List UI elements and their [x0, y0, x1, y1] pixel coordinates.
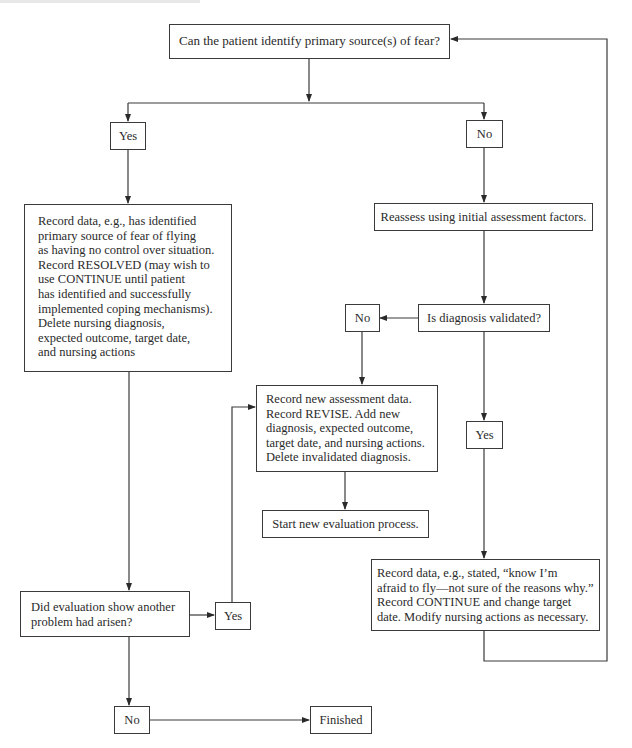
- resolved-line: use CONTINUE until patient: [38, 272, 221, 287]
- diagnosis-yes-box: Yes: [466, 421, 503, 449]
- resolved-line: Record RESOLVED (may wish to: [38, 258, 221, 273]
- reassess-box: Reassess using initial assessment factor…: [374, 203, 593, 231]
- revise-line: Delete invalidated diagnosis.: [266, 450, 431, 465]
- another-problem-yes-box: Yes: [215, 602, 251, 630]
- another-problem-line: Did evaluation show another: [31, 600, 183, 615]
- diagnosis-question-text: Is diagnosis validated?: [427, 311, 541, 326]
- resolved-line: Record data, e.g., has identified: [38, 214, 221, 229]
- another-problem-line: problem had arisen?: [31, 615, 183, 630]
- branch-no-box: No: [466, 120, 503, 148]
- continue-line: afraid to fly—not sure of the reasons wh…: [377, 581, 595, 596]
- start-new-evaluation-text: Start new evaluation process.: [272, 517, 418, 532]
- another-problem-yes-label: Yes: [224, 609, 242, 624]
- start-new-evaluation-box: Start new evaluation process.: [262, 510, 429, 538]
- resolved-line: and nursing actions: [38, 345, 221, 360]
- branch-yes-box: Yes: [110, 122, 146, 150]
- continue-line: Record data, e.g., stated, “know I’m: [377, 566, 595, 581]
- reassess-text: Reassess using initial assessment factor…: [381, 210, 587, 225]
- another-problem-question-box: Did evaluation show another problem had …: [20, 591, 190, 637]
- diagnosis-yes-label: Yes: [475, 428, 493, 443]
- branch-no-label: No: [477, 127, 492, 142]
- finished-box: Finished: [310, 706, 372, 734]
- branch-yes-label: Yes: [119, 129, 137, 144]
- resolved-line: expected outcome, target date,: [38, 331, 221, 346]
- another-problem-no-box: No: [114, 706, 150, 734]
- revise-line: Record new assessment data.: [266, 392, 431, 407]
- another-problem-no-label: No: [124, 713, 139, 728]
- continue-line: Record CONTINUE and change target: [377, 595, 595, 610]
- diagnosis-no-box: No: [345, 304, 380, 332]
- resolved-line: Delete nursing diagnosis,: [38, 316, 221, 331]
- resolved-line: primary source of fear of flying: [38, 229, 221, 244]
- finished-label: Finished: [319, 713, 362, 728]
- resolved-line: as having no control over situation.: [38, 243, 221, 258]
- start-question-text: Can the patient identify primary source(…: [179, 34, 440, 49]
- resolved-record-box: Record data, e.g., has identified primar…: [24, 204, 232, 372]
- resolved-line: has identified and successfully: [38, 287, 221, 302]
- diagnosis-question-box: Is diagnosis validated?: [418, 304, 550, 332]
- continue-record-box: Record data, e.g., stated, “know I’m afr…: [371, 559, 600, 631]
- start-question-box: Can the patient identify primary source(…: [169, 24, 450, 59]
- diagnosis-no-label: No: [355, 311, 370, 326]
- continue-line: date. Modify nursing actions as necessar…: [377, 610, 595, 625]
- revise-line: Record REVISE. Add new: [266, 407, 431, 422]
- revise-record-box: Record new assessment data. Record REVIS…: [256, 385, 438, 472]
- revise-line: diagnosis, expected outcome,: [266, 421, 431, 436]
- resolved-line: implemented coping mechanisms).: [38, 302, 221, 317]
- revise-line: target date, and nursing actions.: [266, 436, 431, 451]
